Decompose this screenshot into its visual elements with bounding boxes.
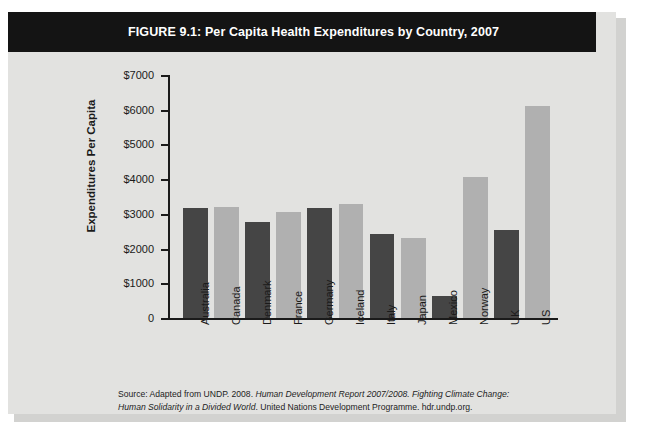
y-axis-tick-label-text: $5000 xyxy=(90,139,154,150)
y-axis-tick-label: $7000 xyxy=(90,70,154,82)
figure-title: FIGURE 9.1: Per Capita Health Expenditur… xyxy=(128,25,499,39)
x-axis-label-norway: Norway xyxy=(479,288,490,325)
x-axis-label-us: US xyxy=(541,310,552,325)
source-line1-plain: Source: Adapted from UNDP. 2008. xyxy=(118,389,255,399)
y-axis-tick xyxy=(161,144,170,146)
x-axis-label-australia: Australia xyxy=(200,282,211,325)
figure-root: FIGURE 9.1: Per Capita Health Expenditur… xyxy=(0,0,650,442)
source-note: Source: Adapted from UNDP. 2008. Human D… xyxy=(118,388,568,414)
y-axis-tick-label-text: $1000 xyxy=(90,278,154,289)
y-axis-tick-label-text: $3000 xyxy=(90,209,154,220)
x-axis-label-mexico: Mexico xyxy=(448,290,459,325)
source-line2-plain: . United Nations Development Programme. … xyxy=(256,402,473,412)
y-axis-tick xyxy=(161,249,170,251)
y-axis-tick xyxy=(161,318,170,320)
x-axis-label-germany: Germany xyxy=(324,280,335,325)
figure-title-banner: FIGURE 9.1: Per Capita Health Expenditur… xyxy=(8,12,596,52)
bar-uk xyxy=(494,230,519,318)
y-axis-tick xyxy=(161,110,170,112)
y-axis-tick-label: $3000 xyxy=(90,209,154,221)
x-axis-label-japan: Japan xyxy=(417,295,428,325)
y-axis-tick xyxy=(161,179,170,181)
y-axis-tick-label: $6000 xyxy=(90,105,154,117)
y-axis-tick xyxy=(161,75,170,77)
x-axis-label-canada: Canada xyxy=(231,286,242,325)
y-axis-tick-label-text: $7000 xyxy=(90,70,154,81)
y-axis-tick-label: $5000 xyxy=(90,139,154,151)
x-axis-label-france: France xyxy=(293,291,304,325)
y-axis-tick-label-text: $2000 xyxy=(90,244,154,255)
x-axis-label-uk: UK xyxy=(510,310,521,325)
y-axis-tick-label-text: 0 xyxy=(90,313,154,324)
bar-us xyxy=(525,106,550,318)
y-axis-tick-label-text: $6000 xyxy=(90,105,154,116)
source-line1-italic: Human Development Report 2007/2008. Figh… xyxy=(255,389,509,399)
chart-region: Expenditures Per Capita $7000$6000$5000$… xyxy=(8,56,608,376)
y-axis-title: Expenditures Per Capita xyxy=(85,76,97,256)
x-axis-label-iceland: Iceland xyxy=(355,290,366,325)
y-axis-tick-label: $4000 xyxy=(90,174,154,186)
y-axis-tick-label-text: $4000 xyxy=(90,174,154,185)
source-line2-italic: Human Solidarity in a Divided World xyxy=(118,402,256,412)
y-axis-tick xyxy=(161,214,170,216)
y-axis-tick xyxy=(161,283,170,285)
x-axis-label-italy: Italy xyxy=(386,305,397,325)
y-axis-tick-label: 0 xyxy=(90,313,154,325)
x-axis-label-denmark: Denmark xyxy=(262,280,273,325)
plot-area: $7000$6000$5000$4000$3000$2000$10000 Aus… xyxy=(168,75,553,318)
y-axis-tick-label: $2000 xyxy=(90,244,154,256)
y-axis-tick-label: $1000 xyxy=(90,278,154,290)
